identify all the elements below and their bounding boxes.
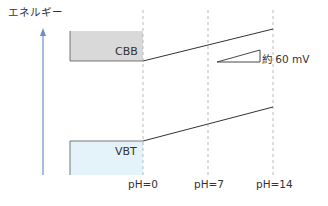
ph0-label: pH=0	[128, 178, 158, 190]
slope-annotation: 約 60 mV	[262, 51, 309, 66]
energy-axis-arrowhead-icon	[40, 28, 46, 36]
ph14-label: pH=14	[256, 178, 293, 190]
y-axis-label: エネルギー	[8, 4, 63, 19]
vbt-label: VBT	[115, 145, 137, 158]
ph7-label: pH=7	[194, 178, 224, 190]
cbb-slope-line	[143, 29, 273, 61]
slope-triangle-icon	[217, 50, 260, 62]
band-diagram	[0, 0, 328, 206]
cbb-label: CBB	[115, 45, 138, 58]
